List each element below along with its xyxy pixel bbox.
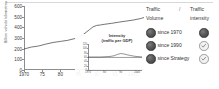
legend-header-traffic-intensity: Traffic intensity [190, 5, 219, 23]
y-tick-label: 600 [14, 4, 22, 9]
inset-x-tick-label: 2000 [134, 71, 140, 74]
main-chart-y-axis-label: Billion vehicle kilometres [4, 0, 8, 55]
inset-y-tick-label: 100 [83, 47, 87, 50]
y-tick-label: 100 [14, 57, 22, 62]
filled-dark-circle-icon [146, 54, 156, 64]
check-circle-icon [199, 41, 209, 51]
legend-header: Traffic Volume / Traffic intensity [146, 4, 219, 26]
y-tick-label: 400 [14, 25, 22, 30]
inset-y-tick-label: 40 [84, 60, 87, 63]
x-tick-label: 1970 [19, 72, 29, 77]
inset-x-tick-label: 1970 [85, 71, 91, 74]
inset-y-tick-label: 20 [84, 64, 87, 67]
x-tick-label: 75 [40, 72, 45, 77]
inset-y-tick-label: 60 [84, 56, 87, 59]
legend-row[interactable]: since Strategy [146, 53, 219, 66]
inset-y-tick-label: 120 [83, 43, 87, 46]
y-tick-label: 200 [14, 46, 22, 51]
filled-dark-circle-icon [146, 28, 156, 38]
inset-y-tick-label: 80 [84, 51, 87, 54]
top-divider [6, 2, 213, 3]
legend-panel: Traffic Volume / Traffic intensity since… [146, 4, 219, 86]
legend-row-label: since Strategy [158, 55, 190, 62]
filled-dark-circle-icon [199, 28, 209, 38]
y-tick-label: 300 [14, 36, 22, 41]
filled-dark-circle-icon [146, 41, 156, 51]
inset-chart-title-line2: (traffic per GDP) [89, 39, 145, 44]
check-circle-icon [199, 54, 209, 64]
legend-header-volume-line2: Volume [146, 14, 172, 23]
legend-header-intensity-line2: intensity [190, 14, 219, 23]
x-tick-label: 80 [58, 72, 63, 77]
inset-chart-series-lines [88, 44, 142, 70]
y-tick-label: 500 [14, 14, 22, 19]
chart-figure: Billion vehicle kilometres 0 100 200 300… [0, 0, 219, 89]
legend-header-traffic-volume: Traffic Volume [146, 5, 172, 23]
legend-header-volume-line1: Traffic [146, 5, 172, 14]
inset-chart-plot-area: 120 100 80 60 40 20 0 1970 80 90 [88, 44, 142, 70]
legend-header-separator: / [179, 5, 180, 14]
inset-chart-title: Intensity (traffic per GDP) [89, 34, 145, 43]
inset-x-tick-label: 80 [103, 71, 106, 74]
inset-x-tick-label: 90 [119, 71, 122, 74]
legend-row-label: since 1990 [158, 42, 182, 49]
inset-intensity-chart: Intensity (traffic per GDP) 120 100 80 6… [75, 34, 145, 79]
legend-row[interactable]: since 1970 [146, 27, 219, 40]
legend-row-label: since 1970 [158, 29, 182, 36]
legend-header-intensity-line1: Traffic [190, 5, 219, 14]
legend-row[interactable]: since 1990 [146, 40, 219, 53]
